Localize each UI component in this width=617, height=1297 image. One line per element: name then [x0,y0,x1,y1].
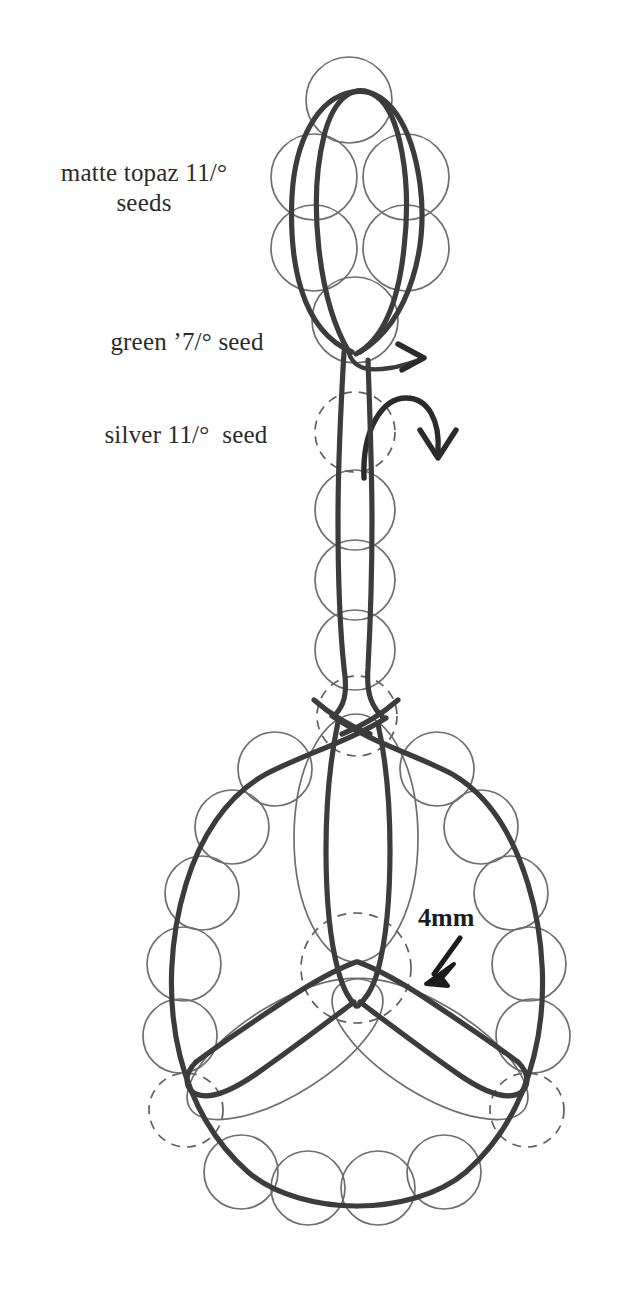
bead-stem-3 [315,610,395,690]
label-green-seed: green ’7/° seed [62,327,312,357]
lower-center-beads [166,714,549,1147]
top-thread-loop [292,91,422,354]
bead-ring-b3 [341,1151,415,1225]
bead-size-arrow [408,930,488,1000]
bead-ring-b1 [204,1135,278,1209]
thread-branch-left-return [196,962,356,1062]
bead-ring-r2 [444,790,518,864]
thread-path-arrow [364,398,456,478]
stem-beads [315,392,397,756]
bead-ring-l4 [147,927,221,1001]
bead-stem-2 [315,540,395,620]
label-matte-topaz: matte topaz 11/° seeds [18,158,270,217]
thread-top-left-arc [292,91,422,352]
thread-tail-arrow [348,344,424,370]
thread-stem-left [334,352,346,716]
bead-ring-r4 [492,927,566,1001]
thread-top-right-arc [316,91,406,354]
bead-ring-b2 [271,1151,345,1225]
stem-threads [334,352,384,718]
bead-silver-hidden [315,392,395,472]
bead-stem-1 [315,470,395,550]
diagram-page: .bead { fill: none; stroke: #6e6e6e; str… [0,0,617,1297]
label-silver-seed: silver 11/° seed [54,420,318,450]
annotation-bead-size: 4mm [418,903,474,933]
